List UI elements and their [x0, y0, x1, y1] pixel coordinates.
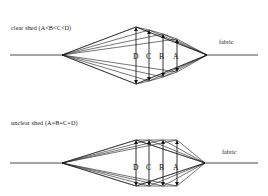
- warp-thread-upper-1: [62, 140, 136, 163]
- converge-thread-upper-4: [177, 39, 207, 55]
- converge-thread-upper-4: [177, 140, 205, 163]
- converge-thread-lower-3: [163, 55, 207, 77]
- warp-thread-lower-1: [62, 55, 136, 84]
- shed-letter-clear-shed-C: C: [146, 52, 151, 61]
- clear-shed-caption: clear shed (A<B<C<D): [11, 24, 71, 31]
- shed-letter-clear-shed-B: B: [159, 52, 164, 61]
- warp-thread-lower-1: [62, 163, 136, 186]
- shed-letter-clear-shed-A: A: [173, 52, 178, 61]
- unclear-shed-caption: unclear shed (A=B=C=D): [11, 119, 78, 126]
- shed-arrowhead-up-A: [175, 140, 179, 144]
- converge-thread-lower-3: [163, 163, 205, 186]
- shed-letter-unclear-shed-A: A: [173, 163, 178, 172]
- fabric-label-top: fabric: [219, 38, 233, 45]
- converge-thread-lower-4: [177, 55, 207, 72]
- shed-arrowhead-down-A: [175, 182, 179, 186]
- fabric-label-bottom: fabric: [222, 148, 236, 155]
- converge-thread-upper-3: [163, 140, 205, 163]
- shed-top-connector-2: [149, 30, 163, 34]
- shed-letter-unclear-shed-C: C: [146, 163, 151, 172]
- warp-thread-upper-1: [62, 27, 136, 55]
- shed-letter-unclear-shed-D: D: [133, 163, 138, 172]
- shed-letter-clear-shed-D: D: [133, 52, 138, 61]
- converge-thread-upper-1: [136, 27, 207, 55]
- converge-thread-upper-3: [163, 34, 207, 55]
- shed-letter-unclear-shed-B: B: [159, 163, 164, 172]
- converge-thread-lower-4: [177, 163, 205, 186]
- converge-thread-upper-1: [136, 140, 205, 163]
- diagram-page: clear shed (A<B<C<D) unclear shed (A=B=C…: [0, 0, 268, 196]
- shed-bottom-connector-3: [163, 72, 177, 77]
- warp-thread-upper-4: [62, 140, 177, 163]
